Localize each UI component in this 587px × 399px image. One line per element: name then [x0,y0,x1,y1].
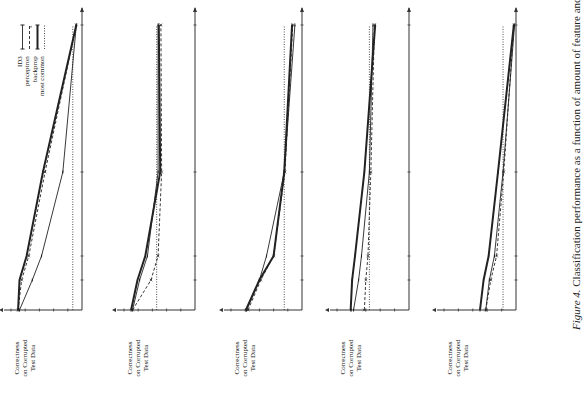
y-axis-title-line: Correctness [13,328,21,388]
y-axis-title-line: Correctness [126,328,134,388]
arrow-icon [193,7,197,12]
y-axis-title-line: on Corrupted [21,328,29,388]
chart-2 [219,7,304,312]
arrow-icon [112,308,116,312]
series-perceptron [133,25,162,310]
legend-label: most common [38,56,46,96]
arrow-icon [432,308,436,312]
y-axis-title-line: Correctness [446,328,454,388]
y-axis-title-line: Test Data [142,328,150,388]
series-perceptron [248,25,293,310]
series-ID3 [133,25,159,310]
legend-line-sample-icon [33,24,51,50]
series-ID3 [486,25,515,310]
y-axis-title: Correctnesson CorruptedTest Data [339,328,363,388]
arrow-icon [80,7,84,12]
chart-1 [112,7,197,312]
arrow-icon [325,308,329,312]
y-axis-title-line: Test Data [462,328,470,388]
legend: ID3perceptronxbackpropmost common [16,24,46,96]
series-backprop [480,25,514,310]
caption-prefix: Figure 4. [570,289,582,330]
chart-4 [432,7,518,312]
arrow-icon [0,308,3,312]
y-axis-title-line: Test Data [249,328,257,388]
y-axis-title: Correctnesson CorruptedTest Data [233,328,257,388]
y-axis-title-line: Correctness [339,328,347,388]
y-axis-title-line: on Corrupted [241,328,249,388]
arrow-icon [300,7,304,12]
chart-3 [325,7,411,312]
arrow-icon [514,7,518,12]
y-axis-title-line: on Corrupted [347,328,355,388]
y-axis-title-line: on Corrupted [134,328,142,388]
series-ID3 [247,25,295,310]
y-axis-title: Correctnesson CorruptedTest Data [13,328,37,388]
y-axis-title-line: Test Data [355,328,363,388]
figure-4 [0,0,587,399]
series-ID3 [354,25,373,310]
caption-text: Classification performance as a function… [570,0,582,289]
y-axis-title: Correctnesson CorruptedTest Data [126,328,150,388]
y-axis-title: Correctnesson CorruptedTest Data [446,328,470,388]
plots-canvas [0,0,587,399]
legend-item: most common [39,24,47,96]
series-backprop [351,25,375,310]
series-backprop [131,25,160,310]
figure-caption: Figure 4. Classification performance as … [570,0,582,330]
arrow-icon [407,7,411,12]
series-backprop [246,25,292,310]
y-axis-title-line: on Corrupted [454,328,462,388]
y-axis-title-line: Correctness [233,328,241,388]
y-axis-title-line: Test Data [29,328,37,388]
arrow-icon [219,308,223,312]
